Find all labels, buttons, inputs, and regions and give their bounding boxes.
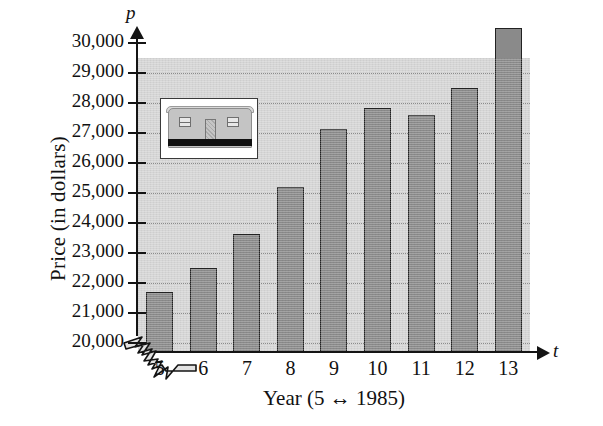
y-axis-line — [136, 36, 138, 336]
inset-window-right — [227, 117, 239, 127]
x-axis-title: Year (5 ↔ 1985) — [138, 386, 530, 411]
bar-12 — [451, 88, 478, 352]
x-axis-arrowhead — [537, 346, 550, 360]
y-axis-tick-label: 28,000 — [36, 90, 124, 112]
inset-photo — [160, 98, 258, 159]
y-axis-tick — [128, 312, 146, 314]
x-axis-tick-label: 8 — [268, 357, 312, 380]
x-axis-tick-label: 9 — [312, 357, 356, 380]
x-axis-variable-symbol: t — [553, 340, 558, 362]
bar-13 — [495, 28, 522, 352]
y-axis-tick — [128, 282, 146, 284]
y-axis-tick-label: 27,000 — [36, 120, 124, 142]
x-axis-tick-label: 7 — [225, 357, 269, 380]
y-axis-tick — [128, 132, 146, 134]
x-axis-tick-label: 12 — [443, 357, 487, 380]
y-axis-tick — [128, 72, 146, 74]
bar-8 — [277, 187, 304, 352]
y-axis-tick-label: 26,000 — [36, 150, 124, 172]
y-axis-tick — [128, 222, 146, 224]
x-axis-tick-label: 10 — [356, 357, 400, 380]
bar-9 — [320, 129, 347, 353]
y-axis-variable-symbol: p — [126, 2, 136, 24]
y-axis-tick-label: 30,000 — [36, 30, 124, 52]
y-axis-tick — [128, 162, 146, 164]
x-axis-tick-label: 11 — [399, 357, 443, 380]
bar-chart-figure: Price (in dollars) p t Year (5 ↔ 1985) 2… — [0, 0, 603, 426]
y-axis-tick-label: 25,000 — [36, 180, 124, 202]
bar-10 — [364, 108, 391, 353]
x-axis-tick-label: 13 — [486, 357, 530, 380]
y-axis-tick-label: 24,000 — [36, 210, 124, 232]
x-axis-tick-label: 5 — [138, 357, 182, 380]
inset-window-left — [179, 117, 191, 127]
y-axis-tick — [128, 102, 146, 104]
y-axis-tick-label: 29,000 — [36, 60, 124, 82]
y-axis-tick — [128, 42, 146, 44]
y-axis-tick-label: 21,000 — [36, 300, 124, 322]
bar-7 — [233, 234, 260, 353]
bar-11 — [408, 115, 435, 352]
y-axis-tick — [128, 342, 146, 344]
gridline — [138, 73, 530, 74]
y-axis-tick — [128, 192, 146, 194]
y-axis-tick — [128, 252, 146, 254]
y-axis-tick-label: 20,000 — [36, 330, 124, 352]
y-axis-tick-label: 22,000 — [36, 270, 124, 292]
x-axis-tick-label: 6 — [181, 357, 225, 380]
inset-skirting — [168, 139, 252, 146]
y-axis-tick-label: 23,000 — [36, 240, 124, 262]
y-axis-arrowhead — [130, 26, 144, 39]
